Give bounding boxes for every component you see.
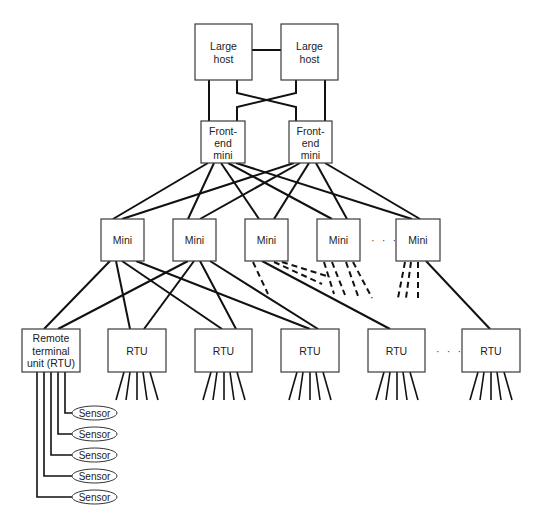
mini-ellipsis: · · ·	[371, 234, 398, 246]
host2-fe1-link	[237, 80, 296, 121]
rtu-label: RTU	[299, 345, 320, 357]
rtu-ellipsis: · · ·	[436, 345, 463, 357]
front-end-label: Front-	[209, 125, 238, 137]
large-host-2: Large host	[281, 24, 338, 80]
host-label: Large	[210, 40, 237, 52]
rtu-label: RTU	[386, 345, 407, 357]
rtu-label: unit (RTU)	[27, 357, 75, 369]
front-end-mini-1: Front- end mini	[201, 121, 245, 163]
host-label: host	[300, 53, 320, 65]
rtu-label: terminal	[32, 345, 69, 357]
sensor-label: Sensor	[79, 492, 111, 503]
sensor-links	[37, 372, 72, 497]
rtu-label: RTU	[126, 345, 147, 357]
mini-3: Mini	[245, 219, 288, 261]
rtu-5: RTU	[368, 329, 425, 372]
mini-4: Mini	[317, 219, 360, 261]
rtu-3: RTU	[195, 329, 252, 372]
mini-label: Mini	[408, 234, 427, 246]
front-end-label: end	[214, 137, 232, 149]
host-label: Large	[296, 40, 323, 52]
mini-label: Mini	[257, 234, 276, 246]
rtu-2: RTU	[108, 329, 166, 372]
host-label: host	[214, 53, 234, 65]
rtu-label: Remote	[33, 332, 70, 344]
mini-5: Mini	[396, 219, 440, 261]
sensor-label: Sensor	[79, 408, 111, 419]
sensor-label: Sensor	[79, 429, 111, 440]
frontend-mini-connections	[113, 163, 420, 219]
sensor-1: Sensor	[72, 406, 117, 420]
rtu-label: RTU	[213, 345, 234, 357]
rtu-4: RTU	[281, 329, 339, 372]
front-end-label: end	[302, 137, 320, 149]
mini-2: Mini	[173, 219, 216, 261]
sensor-5: Sensor	[72, 490, 117, 504]
sensor-3: Sensor	[72, 448, 117, 462]
front-end-label: mini	[213, 149, 232, 161]
sensor-4: Sensor	[72, 469, 117, 483]
front-end-label: Front-	[296, 125, 325, 137]
mini-label: Mini	[329, 234, 348, 246]
rtu-1-remote-terminal-unit: Remote terminal unit (RTU)	[22, 329, 80, 372]
network-hierarchy-diagram: Large host Large host Front- end mini Fr…	[0, 0, 540, 519]
rtu-label: RTU	[480, 345, 501, 357]
sensor-label: Sensor	[79, 450, 111, 461]
rtu-fanout-lines	[116, 372, 512, 400]
large-host-1: Large host	[195, 24, 252, 80]
sensor-2: Sensor	[72, 427, 117, 441]
front-end-mini-2: Front- end mini	[289, 121, 332, 163]
mini-1: Mini	[101, 219, 144, 261]
mini-label: Mini	[113, 234, 132, 246]
mini-label: Mini	[185, 234, 204, 246]
dashed-stub-connections	[253, 262, 418, 298]
rtu-6: RTU	[462, 329, 520, 372]
mini-rtu-connections	[44, 261, 490, 329]
sensor-label: Sensor	[79, 471, 111, 482]
front-end-label: mini	[301, 149, 320, 161]
